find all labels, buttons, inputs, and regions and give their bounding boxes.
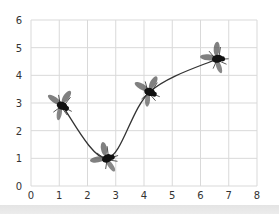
y-tick-label: 6 — [16, 15, 22, 26]
x-tick-label: 2 — [84, 190, 90, 201]
y-tick-label: 1 — [16, 153, 22, 164]
y-tick-label: 5 — [16, 43, 22, 54]
bottom-band — [0, 205, 279, 214]
fly-line-chart: 0123456 012345678 — [0, 0, 279, 214]
y-tick-label: 2 — [16, 126, 22, 137]
x-tick-label: 6 — [197, 190, 203, 201]
x-tick-label: 5 — [169, 190, 175, 201]
series-curve — [62, 59, 217, 159]
x-tick-label: 3 — [113, 190, 119, 201]
fly-icon — [129, 70, 165, 109]
x-axis-ticks: 012345678 — [28, 190, 260, 201]
x-tick-label: 4 — [141, 190, 147, 201]
x-tick-label: 7 — [226, 190, 232, 201]
y-axis-ticks: 0123456 — [16, 15, 22, 192]
x-tick-label: 1 — [56, 190, 62, 201]
y-tick-label: 0 — [16, 181, 22, 192]
y-tick-label: 3 — [16, 98, 22, 109]
fly-icon — [197, 40, 231, 77]
y-tick-label: 4 — [16, 70, 22, 81]
x-tick-label: 0 — [28, 190, 34, 201]
x-tick-label: 8 — [254, 190, 260, 201]
